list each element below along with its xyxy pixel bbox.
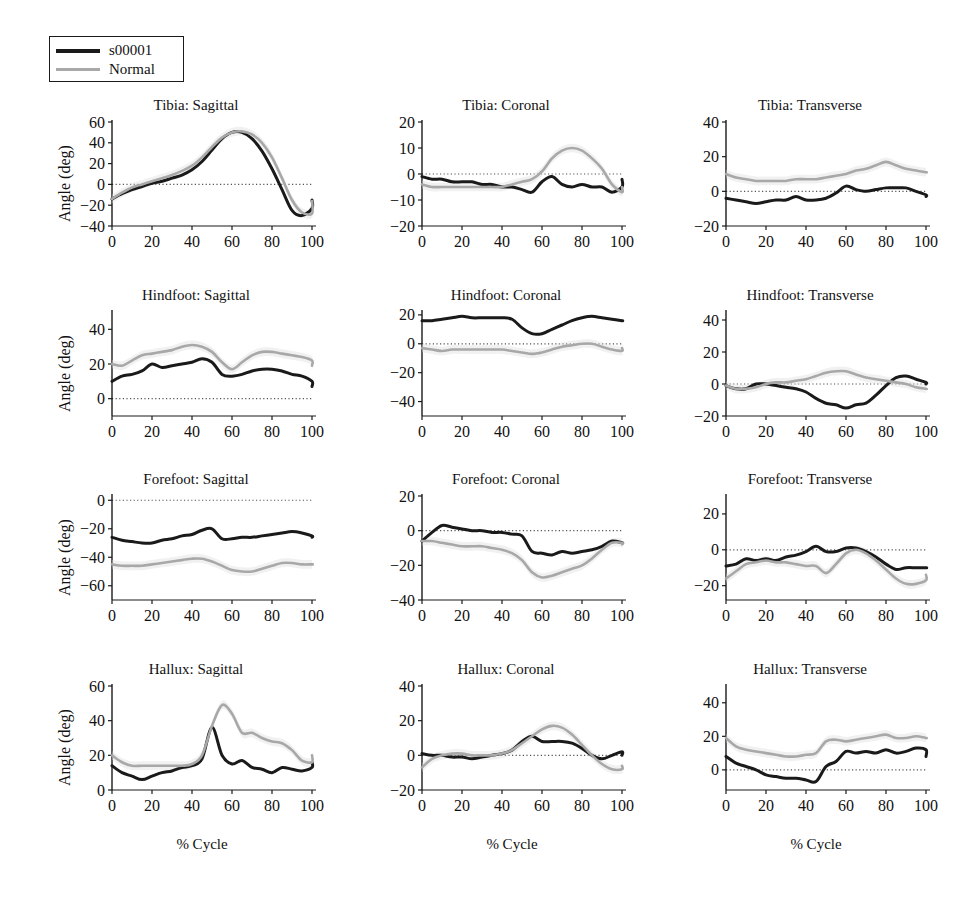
- x-tick-label: 40: [798, 607, 814, 624]
- y-axis-label: Angle (deg): [56, 519, 74, 596]
- x-tick-label: 60: [224, 233, 240, 250]
- x-tick-label: 0: [418, 233, 426, 250]
- normal-range-band: [112, 127, 313, 219]
- x-tick-label: 100: [300, 423, 324, 440]
- series-line-normal: [726, 550, 927, 585]
- x-tick-label: 20: [454, 797, 470, 814]
- x-tick-label: 0: [722, 423, 730, 440]
- x-tick-label: 60: [224, 797, 240, 814]
- series-line-normal: [112, 705, 313, 766]
- plot-area: −40−20020020406080100: [372, 470, 640, 656]
- panel-title: Hindfoot: Transverse: [676, 286, 944, 304]
- x-tick-label: 80: [264, 607, 280, 624]
- x-tick-label: 100: [300, 233, 324, 250]
- y-tick-label: 20: [89, 747, 105, 764]
- x-tick-label: 20: [144, 423, 160, 440]
- x-tick-label: 20: [454, 607, 470, 624]
- x-tick-label: 20: [758, 607, 774, 624]
- plot-area: −20−1001020020406080100: [372, 96, 640, 282]
- normal-range-band: [726, 730, 927, 761]
- x-tick-label: 60: [224, 607, 240, 624]
- x-tick-label: 80: [264, 423, 280, 440]
- x-axis-label: % Cycle: [716, 836, 916, 853]
- y-tick-label: 40: [703, 694, 719, 711]
- legend: s00001 Normal: [49, 36, 184, 82]
- x-tick-label: 100: [914, 233, 938, 250]
- y-tick-label: 0: [407, 335, 415, 352]
- x-tick-label: 20: [758, 233, 774, 250]
- panel-title: Tibia: Coronal: [372, 96, 640, 114]
- plot-area: −40−20020020406080100: [372, 286, 640, 472]
- y-tick-label: 0: [711, 183, 719, 200]
- chart-panel: Hallux: Transverse% Cycle020400204060801…: [676, 660, 944, 846]
- y-tick-label: −20: [80, 197, 105, 214]
- y-tick-label: −60: [80, 577, 105, 594]
- y-tick-label: 20: [703, 728, 719, 745]
- x-tick-label: 60: [224, 423, 240, 440]
- legend-entry-subject: s00001: [56, 41, 177, 60]
- y-tick-label: 40: [399, 678, 415, 695]
- x-tick-label: 40: [184, 607, 200, 624]
- x-tick-label: 100: [610, 423, 634, 440]
- y-tick-label: −20: [390, 364, 415, 381]
- x-tick-label: 20: [454, 233, 470, 250]
- y-tick-label: −20: [390, 782, 415, 799]
- plot-area: −2002040020406080100: [676, 286, 944, 472]
- x-tick-label: 0: [108, 233, 116, 250]
- panel-title: Hindfoot: Sagittal: [62, 286, 330, 304]
- panel-title: Forefoot: Sagittal: [62, 470, 330, 488]
- normal-range-band: [422, 721, 623, 774]
- y-tick-label: 0: [407, 522, 415, 539]
- x-tick-label: 80: [264, 797, 280, 814]
- x-tick-label: 80: [574, 423, 590, 440]
- x-tick-label: 40: [494, 423, 510, 440]
- x-tick-label: 60: [534, 423, 550, 440]
- panel-title: Forefoot: Coronal: [372, 470, 640, 488]
- plot-area: −40−200204060020406080100: [62, 96, 330, 282]
- chart-panel: Forefoot: Transverse−20020020406080100: [676, 470, 944, 656]
- y-tick-label: 0: [97, 176, 105, 193]
- y-tick-label: 20: [399, 306, 415, 323]
- series-line-s00001: [422, 525, 623, 555]
- y-tick-label: −40: [80, 549, 105, 566]
- y-axis-label: Angle (deg): [56, 335, 74, 412]
- x-tick-label: 20: [758, 423, 774, 440]
- x-tick-label: 20: [454, 423, 470, 440]
- y-tick-label: −20: [694, 218, 719, 235]
- x-tick-label: 100: [914, 607, 938, 624]
- y-tick-label: −40: [390, 592, 415, 609]
- y-tick-label: 20: [89, 356, 105, 373]
- y-tick-label: −20: [390, 218, 415, 235]
- normal-range-band: [726, 367, 927, 394]
- y-axis-label: Angle (deg): [56, 145, 74, 222]
- x-tick-label: 40: [494, 797, 510, 814]
- x-tick-label: 40: [184, 423, 200, 440]
- x-tick-label: 80: [878, 797, 894, 814]
- plot-area: −20020020406080100: [676, 470, 944, 656]
- plot-area: 0204060020406080100: [62, 660, 330, 846]
- legend-label-subject: s00001: [109, 42, 152, 59]
- panel-title: Tibia: Transverse: [676, 96, 944, 114]
- y-tick-label: 20: [399, 712, 415, 729]
- x-tick-label: 80: [878, 233, 894, 250]
- x-tick-label: 20: [144, 607, 160, 624]
- plot-area: 02040020406080100: [676, 660, 944, 846]
- y-tick-label: 0: [407, 747, 415, 764]
- y-axis-label: Angle (deg): [56, 709, 74, 786]
- x-axis-label: % Cycle: [102, 836, 302, 853]
- y-tick-label: 20: [399, 114, 415, 131]
- x-tick-label: 0: [108, 797, 116, 814]
- y-tick-label: 40: [703, 312, 719, 329]
- panel-title: Hallux: Transverse: [676, 660, 944, 678]
- chart-panel: Hallux: SagittalAngle (deg)% Cycle020406…: [62, 660, 330, 846]
- legend-entry-normal: Normal: [56, 60, 177, 79]
- panel-title: Forefoot: Transverse: [676, 470, 944, 488]
- x-tick-label: 60: [838, 423, 854, 440]
- x-tick-label: 100: [610, 233, 634, 250]
- x-tick-label: 0: [722, 607, 730, 624]
- x-tick-label: 20: [144, 797, 160, 814]
- x-tick-label: 80: [574, 607, 590, 624]
- x-tick-label: 80: [878, 607, 894, 624]
- y-tick-label: −20: [80, 520, 105, 537]
- series-line-s00001: [112, 728, 313, 780]
